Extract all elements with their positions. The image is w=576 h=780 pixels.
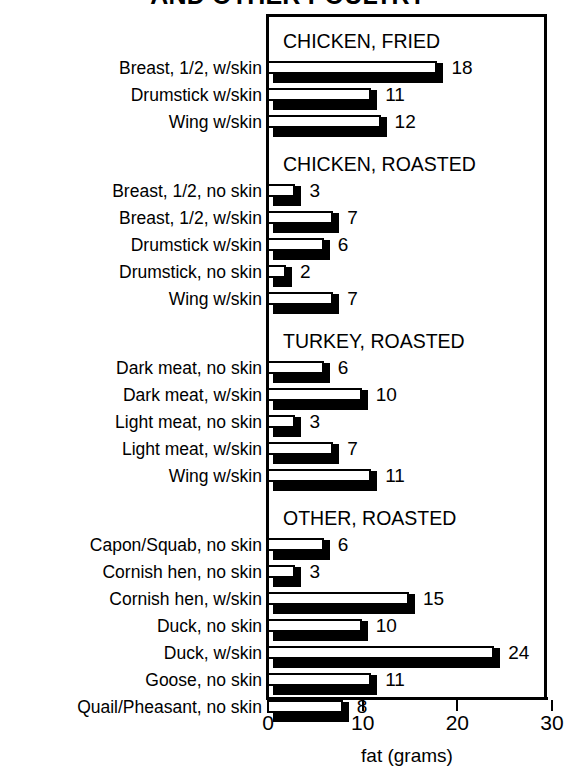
bar: [267, 618, 370, 642]
bar-row: Drumstick w/skin6: [0, 235, 576, 262]
bar-row-label: Goose, no skin: [145, 670, 262, 690]
bar-shadow-side: [361, 390, 368, 403]
bar-front-face: [267, 292, 333, 305]
bar-value-label: 7: [347, 438, 358, 460]
x-axis-title: fat (grams): [266, 745, 548, 767]
bar-shadow-bottom: [273, 713, 349, 722]
chart-page: AND OTHER POULTRY CHICKEN, FRIEDBreast, …: [0, 0, 576, 780]
bar-row-label: Wing w/skin: [169, 466, 262, 486]
bar-front-face: [267, 238, 324, 251]
bar: [267, 291, 341, 315]
bar: [267, 60, 445, 84]
bar-row: Duck, no skin10: [0, 616, 576, 643]
bar-row-label: Cornish hen, no skin: [102, 562, 262, 582]
bar-row-label: Wing w/skin: [169, 289, 262, 309]
bar-shadow-side: [323, 363, 330, 376]
bar-row-label: Breast, 1/2, no skin: [112, 181, 262, 201]
bar-shadow-bottom: [273, 455, 339, 464]
bar-value-label: 7: [347, 288, 358, 310]
bar: [267, 645, 502, 669]
bar-value-label: 2: [300, 261, 311, 283]
bar-front-face: [267, 88, 371, 101]
section-header: OTHER, ROASTED: [283, 507, 456, 530]
bar: [267, 114, 389, 138]
bar-row: Breast, 1/2, no skin3: [0, 181, 576, 208]
bar-row: Drumstick w/skin11: [0, 85, 576, 112]
bar-shadow-bottom: [273, 632, 368, 641]
bar: [267, 87, 379, 111]
bar-row: Wing w/skin7: [0, 289, 576, 316]
bar-front-face: [267, 538, 324, 551]
bar-row: Breast, 1/2, w/skin7: [0, 208, 576, 235]
bar-value-label: 10: [376, 384, 397, 406]
bar-row: Drumstick, no skin2: [0, 262, 576, 289]
bar-row-label: Dark meat, no skin: [116, 358, 262, 378]
bar-row: Cornish hen, w/skin15: [0, 589, 576, 616]
bar-shadow-side: [332, 444, 339, 457]
bar-shadow-bottom: [273, 401, 368, 410]
bar-row: Wing w/skin12: [0, 112, 576, 139]
bar-value-label: 3: [309, 411, 320, 433]
bar-shadow-bottom: [273, 224, 339, 233]
bar-shadow-side: [370, 675, 377, 688]
bar-row: Dark meat, no skin6: [0, 358, 576, 385]
bar-row-label: Dark meat, w/skin: [123, 385, 262, 405]
bar-front-face: [267, 619, 362, 632]
bar-shadow-side: [380, 117, 387, 130]
bar-front-face: [267, 442, 333, 455]
bar-front-face: [267, 646, 494, 659]
bar-row: Light meat, w/skin7: [0, 439, 576, 466]
bar-value-label: 7: [347, 207, 358, 229]
bar-row-label: Quail/Pheasant, no skin: [77, 697, 262, 717]
x-axis-tick-label: 30: [540, 710, 563, 735]
bar-shadow-side: [361, 621, 368, 634]
bar-row-label: Capon/Squab, no skin: [90, 535, 262, 555]
bar-shadow-side: [436, 63, 443, 76]
bar-shadow-side: [408, 594, 415, 607]
bar-value-label: 24: [508, 642, 529, 664]
bar-value-label: 6: [338, 234, 349, 256]
section-header: CHICKEN, FRIED: [283, 30, 440, 53]
bar-row: Duck, w/skin24: [0, 643, 576, 670]
bar-shadow-side: [285, 267, 292, 280]
bar-shadow-bottom: [273, 482, 377, 491]
bar: [267, 414, 303, 438]
bar: [267, 591, 417, 615]
bar-front-face: [267, 61, 437, 74]
bar-shadow-bottom: [273, 659, 500, 668]
bar-shadow-bottom: [273, 128, 387, 137]
bar-value-label: 11: [385, 84, 405, 106]
bar-shadow-bottom: [273, 305, 339, 314]
bar-value-label: 3: [309, 561, 320, 583]
bar-value-label: 6: [338, 357, 349, 379]
bar: [267, 564, 303, 588]
bar-row-label: Drumstick, no skin: [119, 262, 262, 282]
bar-front-face: [267, 184, 295, 197]
bar-front-face: [267, 265, 286, 278]
section-header: CHICKEN, ROASTED: [283, 153, 476, 176]
bar-front-face: [267, 211, 333, 224]
bar-shadow-side: [370, 90, 377, 103]
bar-row-label: Light meat, w/skin: [122, 439, 262, 459]
bar-shadow-side: [332, 294, 339, 307]
bar-row: Breast, 1/2, w/skin18: [0, 58, 576, 85]
bar-front-face: [267, 361, 324, 374]
bar-value-label: 3: [309, 180, 320, 202]
bar-shadow-side: [294, 417, 301, 430]
bar-shadow-bottom: [273, 101, 377, 110]
bar: [267, 264, 294, 288]
bar-shadow-bottom: [273, 251, 330, 260]
bar-front-face: [267, 700, 343, 713]
bar-front-face: [267, 388, 362, 401]
bar: [267, 387, 370, 411]
bar-value-label: 11: [385, 465, 405, 487]
bar-row: Light meat, no skin3: [0, 412, 576, 439]
bar-row: Wing w/skin11: [0, 466, 576, 493]
bar-rows-container: CHICKEN, FRIEDBreast, 1/2, w/skin18Drums…: [0, 0, 576, 700]
bar-row-label: Drumstick w/skin: [131, 235, 262, 255]
bar-shadow-side: [294, 567, 301, 580]
x-axis-tick-label: 0: [262, 710, 274, 735]
bar-shadow-side: [323, 240, 330, 253]
bar-shadow-side: [342, 702, 349, 715]
bar-value-label: 15: [423, 588, 444, 610]
